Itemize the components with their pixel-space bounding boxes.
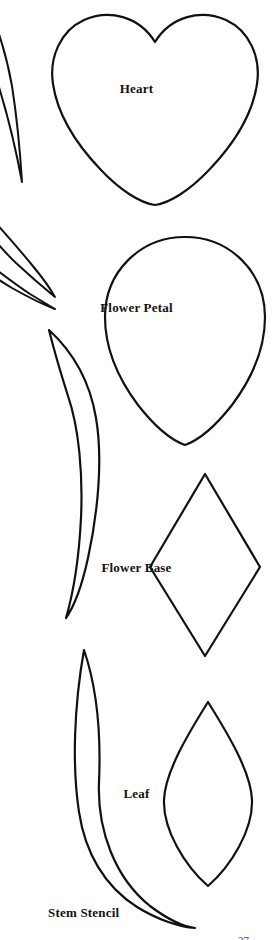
teardrop-petal-shape xyxy=(105,237,265,445)
heart-shape xyxy=(52,15,258,205)
crescent-stem-shape xyxy=(49,330,99,618)
shape-label-stem-stencil: Stem Stencil xyxy=(48,906,119,919)
page-number: 27 xyxy=(238,930,249,940)
shape-label-flower-petal: Flower Petal xyxy=(0,301,273,314)
shape-label-heart: Heart xyxy=(0,82,273,95)
stencil-page: Heart Flower Petal Flower Base Leaf Stem… xyxy=(0,0,273,940)
shape-label-flower-base: Flower Base xyxy=(0,561,273,574)
shape-label-leaf: Leaf xyxy=(0,787,273,800)
